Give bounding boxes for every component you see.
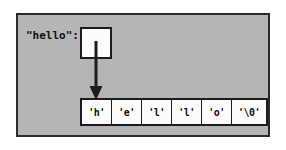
- character-array: 'h' 'e' 'l' 'l' 'o' '\0': [80, 98, 268, 126]
- pointer-variable-label: "hello":: [26, 30, 79, 42]
- array-cell: 'e': [112, 100, 142, 124]
- pointer-arrow-icon: [80, 41, 112, 101]
- array-cell: 'h': [82, 100, 112, 124]
- array-cell: 'l': [142, 100, 172, 124]
- array-cell: 'o': [202, 100, 232, 124]
- array-cell: 'l': [172, 100, 202, 124]
- diagram-panel: "hello": 'h' 'e' 'l' 'l' 'o' '\0': [16, 13, 270, 137]
- array-cell: '\0': [232, 100, 266, 124]
